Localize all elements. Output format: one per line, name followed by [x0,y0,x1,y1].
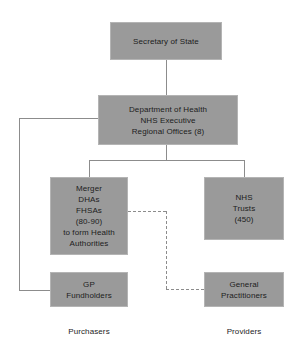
org-chart-canvas: Secretary of State Department of Health … [0,0,301,350]
node-merger-health-authorities[interactable]: Merger DHAs FHSAs (80-90) to form Health… [50,177,128,255]
connector-department-down [166,145,167,160]
connector-left-vertical-segment [19,118,20,290]
connector-branch-to-merger [89,160,90,177]
node-secretary-of-state[interactable]: Secretary of State [110,22,222,60]
connector-branch-bar [89,160,245,161]
caption-purchasers: Purchasers [44,327,134,336]
node-department-of-health[interactable]: Department of Health NHS Executive Regio… [98,95,238,145]
node-nhs-trusts-label: NHS Trusts (450) [230,192,259,225]
node-department-line1: Department of Health [129,105,207,114]
node-nhs-trusts-line2: Trusts [233,204,256,213]
node-merger-label: Merger DHAs FHSAs (80-90) to form Health… [60,183,118,249]
node-nhs-trusts-line3: (450) [234,215,253,224]
node-gp-fundholders-line2: Fundholders [66,291,112,300]
node-merger-line1: Merger [76,184,102,193]
connector-branch-to-nhs-trusts [244,160,245,177]
caption-providers: Providers [199,327,289,336]
node-merger-line3: FHSAs [76,206,102,215]
node-department-line3: Regional Offices (8) [132,127,205,136]
node-merger-line5: to form Health [63,228,115,237]
connector-to-gp-fundholders [19,290,50,291]
node-general-practitioners[interactable]: General Practitioners [204,272,284,307]
node-nhs-trusts[interactable]: NHS Trusts (450) [204,177,284,240]
node-merger-line2: DHAs [78,195,99,204]
node-gp-fundholders-line1: GP [83,280,95,289]
node-merger-line4: (80-90) [76,217,103,226]
node-secretary-label: Secretary of State [130,36,202,47]
node-nhs-trusts-line1: NHS [235,193,252,202]
dashed-connector-merger-right-segment [128,211,166,212]
node-general-practitioners-line2: Practitioners [221,291,267,300]
dashed-connector-vertical-segment [166,211,167,289]
node-gp-fundholders[interactable]: GP Fundholders [50,272,128,307]
dashed-connector-to-general-practitioners [166,289,204,290]
node-department-label: Department of Health NHS Executive Regio… [126,104,210,137]
node-general-practitioners-line1: General [229,280,258,289]
node-department-line2: NHS Executive [140,116,195,125]
node-general-practitioners-label: General Practitioners [218,279,270,301]
node-gp-fundholders-label: GP Fundholders [63,279,115,301]
connector-secretary-to-department [166,60,167,95]
connector-department-left-segment [19,118,98,119]
node-merger-line6: Authorities [70,239,109,248]
